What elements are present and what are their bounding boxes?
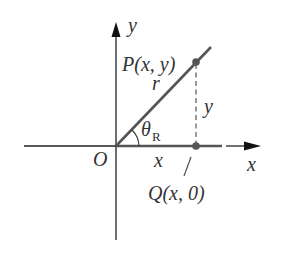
y-axis-label: y [126,14,137,37]
x-axis-arrow-icon [244,142,261,151]
y-axis-arrow-icon [112,22,121,37]
x-axis-label: x [246,153,256,175]
point-p-label: P(x, y) [121,53,176,76]
angle-subscript-label: R [152,129,161,144]
radius-label: r [152,72,160,94]
point-q [192,142,200,150]
point-p [192,58,200,66]
angle-arc [132,130,139,146]
diagram-canvas: y x O P(x, y) Q(x, 0) r y x θ R [0,0,288,256]
horizontal-length-label: x [153,149,163,171]
origin-label: O [93,148,107,170]
reference-angle-diagram: y x O P(x, y) Q(x, 0) r y x θ R [0,0,288,256]
point-q-label: Q(x, 0) [148,182,205,205]
q-leader-line [184,157,191,176]
vertical-length-label: y [202,95,213,118]
angle-theta-label: θ [141,118,151,140]
